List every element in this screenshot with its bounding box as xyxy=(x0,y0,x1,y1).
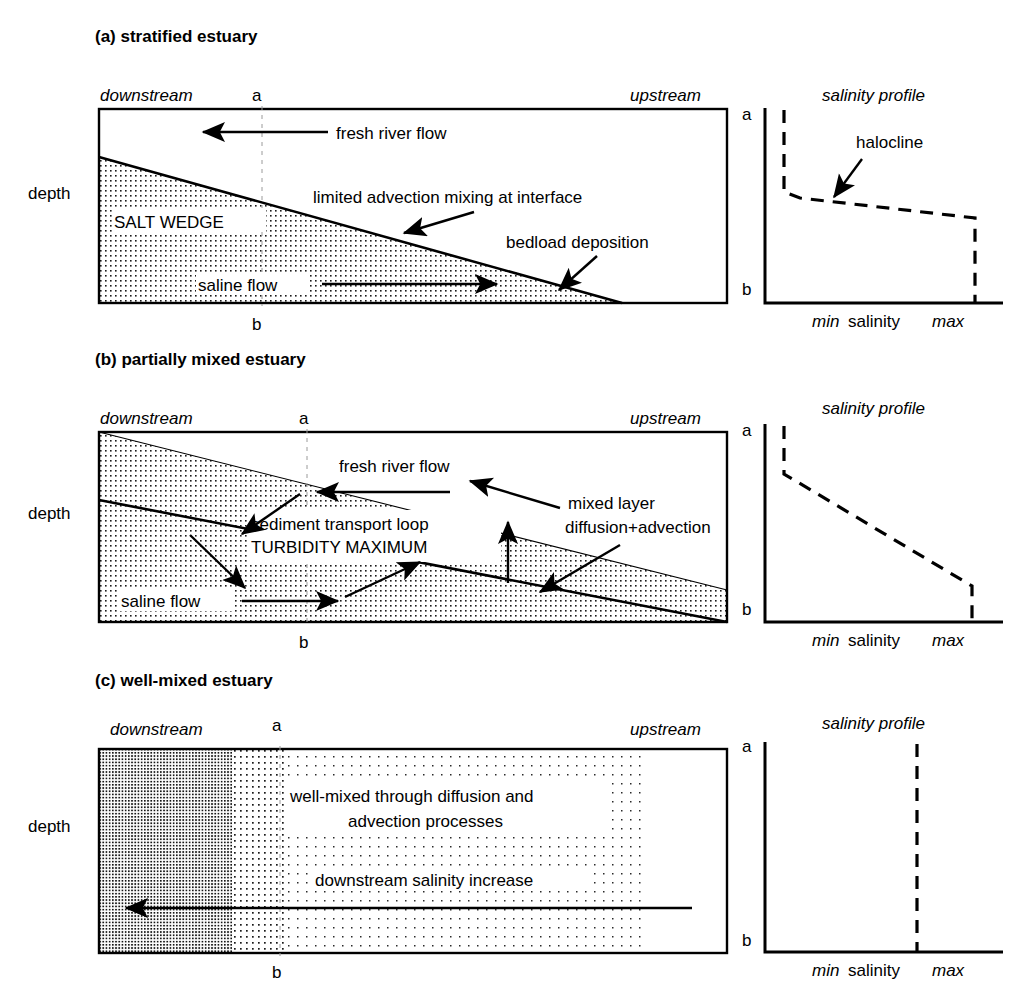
panel-c-salinity-band-dense xyxy=(99,749,232,953)
panel-a-profile-top-label: a xyxy=(742,105,752,124)
panel-a-downstream-label: downstream xyxy=(100,86,193,105)
panel-a-depth-label: depth xyxy=(28,184,71,203)
panel-a-fresh-river-flow-label: fresh river flow xyxy=(336,124,447,143)
panel-a-halocline-label: halocline xyxy=(856,133,923,152)
panel-b-fresh-river-flow-label: fresh river flow xyxy=(339,457,450,476)
estuary-classification-figure: (a) stratified estuary downstream upstre… xyxy=(0,0,1024,1004)
panel-c-salinity-profile: salinity profile a b min salinity max xyxy=(742,714,1003,980)
panel-a-halocline-arrow xyxy=(834,159,862,197)
panel-a-profile-min: min xyxy=(812,312,839,331)
panel-b-tick-a: a xyxy=(299,409,309,428)
panel-c-profile-top-label: a xyxy=(742,737,752,756)
panel-c-downstream-label: downstream xyxy=(110,720,203,739)
panel-c: (c) well-mixed estuary downstream upstre… xyxy=(28,671,727,982)
panel-a-profile-bottom-label: b xyxy=(742,280,751,299)
panel-c-well-mixed-line1: well-mixed through diffusion and xyxy=(289,787,534,806)
panel-c-tick-a: a xyxy=(272,716,282,735)
panel-c-downstream-increase-label: downstream salinity increase xyxy=(315,871,533,890)
panel-c-title: (c) well-mixed estuary xyxy=(95,671,273,690)
panel-a-upstream-label: upstream xyxy=(630,86,701,105)
panel-a-saline-flow-label: saline flow xyxy=(198,276,278,295)
panel-b-profile-title: salinity profile xyxy=(822,399,925,418)
panel-a-salinity-profile: salinity profile a b halocline min salin… xyxy=(742,86,1003,331)
panel-a-tick-b: b xyxy=(252,315,261,334)
panel-a-profile-axis-name: salinity xyxy=(848,312,900,331)
panel-b-salinity-profile: salinity profile a b min salinity max xyxy=(742,399,1003,650)
panel-b-profile-axes xyxy=(765,424,1003,622)
panel-b-profile-curve xyxy=(784,426,972,622)
panel-b-title: (b) partially mixed estuary xyxy=(95,350,306,369)
panel-c-profile-max: max xyxy=(932,961,965,980)
panel-c-salinity-band-light xyxy=(284,749,646,953)
panel-b-profile-max: max xyxy=(932,631,965,650)
panel-b-profile-bottom-label: b xyxy=(742,600,751,619)
panel-a-profile-title: salinity profile xyxy=(822,86,925,105)
panel-a-bedload-label: bedload deposition xyxy=(506,233,649,252)
panel-b-turbidity-max-label: TURBIDITY MAXIMUM xyxy=(251,538,427,557)
panel-b-profile-min: min xyxy=(812,631,839,650)
panel-b-saline-flow-label: saline flow xyxy=(121,592,201,611)
panel-c-well-mixed-line2: advection processes xyxy=(348,812,503,831)
panel-c-profile-axis-name: salinity xyxy=(848,961,900,980)
panel-b-tick-b: b xyxy=(299,633,308,652)
panel-c-profile-title: salinity profile xyxy=(822,714,925,733)
panel-c-upstream-label: upstream xyxy=(630,720,701,739)
panel-b-upstream-label: upstream xyxy=(630,409,701,428)
panel-c-depth-label: depth xyxy=(28,817,71,836)
panel-b-depth-label: depth xyxy=(28,504,71,523)
panel-a-tick-a: a xyxy=(252,86,262,105)
panel-a-salt-wedge-label: SALT WEDGE xyxy=(114,213,224,232)
panel-b-diffusion-advection-label: diffusion+advection xyxy=(565,518,711,537)
panel-a: (a) stratified estuary downstream upstre… xyxy=(28,27,727,334)
panel-a-limited-advection-label: limited advection mixing at interface xyxy=(313,188,582,207)
panel-b-downstream-label: downstream xyxy=(100,409,193,428)
panel-b-profile-top-label: a xyxy=(742,421,752,440)
panel-b: (b) partially mixed estuary downstream u… xyxy=(28,350,727,652)
panel-c-tick-b: b xyxy=(272,963,281,982)
panel-c-profile-axes xyxy=(765,742,1003,952)
panel-c-profile-min: min xyxy=(812,961,839,980)
panel-b-profile-axis-name: salinity xyxy=(848,631,900,650)
panel-c-profile-bottom-label: b xyxy=(742,931,751,950)
panel-a-profile-max: max xyxy=(932,312,965,331)
panel-b-mixed-layer-label: mixed layer xyxy=(568,494,655,513)
panel-c-salinity-band-medium xyxy=(232,749,284,953)
panel-a-limited-advection-arrow xyxy=(404,212,474,233)
panel-b-sediment-loop-label: sediment transport loop xyxy=(251,515,429,534)
panel-a-title: (a) stratified estuary xyxy=(95,27,258,46)
panel-a-bedload-arrow xyxy=(559,256,597,290)
